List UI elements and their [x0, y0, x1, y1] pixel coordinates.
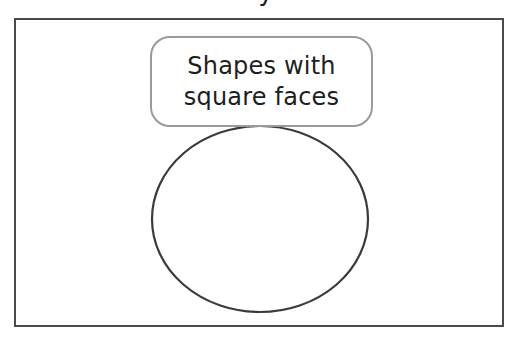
set-label-line-2: square faces	[184, 82, 339, 113]
set-circle	[152, 126, 368, 312]
set-label: Shapes with square faces	[150, 36, 373, 127]
set-label-line-1: Shapes with	[187, 51, 335, 82]
